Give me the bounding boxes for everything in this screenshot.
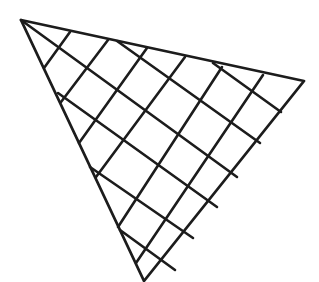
grid-line-up-right-4 [96,57,185,177]
triangle-outline [21,20,304,281]
grid-line-up-right-2 [61,40,108,102]
grid-line-up-right-3 [79,48,147,143]
triangle-grid-svg [0,0,319,282]
grid-lines-down-right [21,20,281,270]
grid-line-up-right-1 [44,32,70,68]
triangle-grid-drawing: Hand-drawn triangle filled with a crossh… [0,0,319,282]
grid-line-down-right-3 [213,63,281,112]
